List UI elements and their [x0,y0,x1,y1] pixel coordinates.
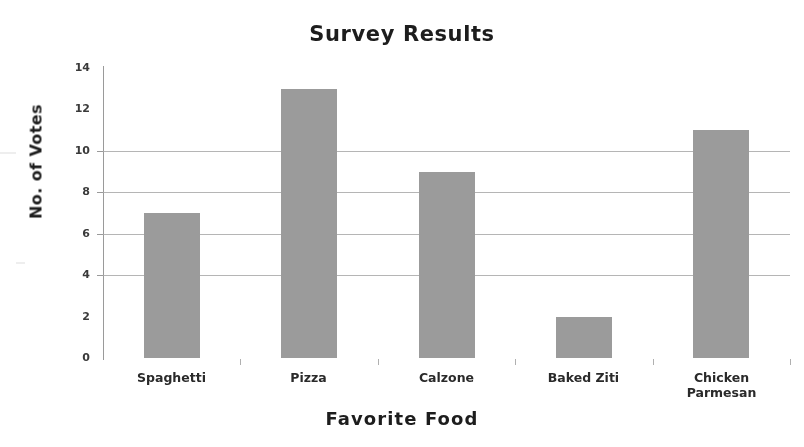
x-axis-title: Favorite Food [0,408,804,429]
x-tick-1 [378,359,379,365]
scan-artifact [0,152,16,154]
y-axis-title: No. of Votes [27,82,46,242]
y-tick-label-10: 10 [50,144,90,157]
bar-chicken-parmesan [693,130,749,358]
gridline-10 [103,151,790,152]
y-tick-label-8: 8 [50,185,90,198]
category-label-baked-ziti: Baked Ziti [515,370,652,385]
category-label-line: Parmesan [653,385,790,400]
category-label-line: Spaghetti [137,370,206,385]
plot-area [103,68,790,358]
x-tick-3 [653,359,654,365]
category-label-calzone: Calzone [378,370,515,385]
category-label-line: Calzone [419,370,474,385]
x-tick-0 [240,359,241,365]
category-label-line: Chicken [694,370,749,385]
y-tick-label-14: 14 [50,61,90,74]
y-tick-label-4: 4 [50,268,90,281]
chart-title: Survey Results [0,22,804,46]
y-tick-label-0: 0 [50,351,90,364]
y-tick-label-2: 2 [50,310,90,323]
scan-artifact [16,262,25,264]
category-label-chicken-parmesan: ChickenParmesan [653,370,790,400]
category-label-pizza: Pizza [240,370,377,385]
category-label-line: Pizza [290,370,326,385]
category-label-line: Baked Ziti [548,370,619,385]
y-tick-label-12: 12 [50,102,90,115]
bar-pizza [281,89,337,358]
y-tick-label-6: 6 [50,227,90,240]
x-tick-2 [515,359,516,365]
bar-spaghetti [144,213,200,358]
bar-calzone [419,172,475,358]
survey-results-bar-chart: Survey Results No. of Votes Favorite Foo… [0,0,804,447]
x-tick-end [790,359,791,365]
category-label-spaghetti: Spaghetti [103,370,240,385]
bar-baked-ziti [556,317,612,358]
